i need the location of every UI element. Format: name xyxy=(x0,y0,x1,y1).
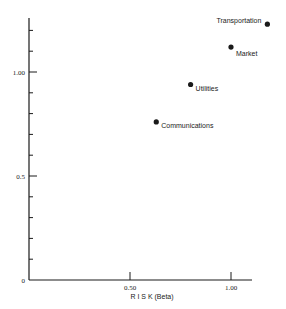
x-axis-title: R I S K (Beta) xyxy=(130,293,173,301)
point-marker xyxy=(265,22,270,27)
point-label: Utilities xyxy=(196,85,219,92)
x-tick-label: 1.00 xyxy=(225,284,238,292)
x-tick-label: 0.50 xyxy=(124,284,137,292)
point-label: Transportation xyxy=(216,17,261,25)
y-tick-label: 0.5 xyxy=(16,173,25,181)
point-marker xyxy=(228,44,233,49)
point-label: Communications xyxy=(161,122,214,129)
axes: 00.51.000.501.00 xyxy=(13,18,252,292)
data-point: Utilities xyxy=(188,82,219,93)
data-points: CommunicationsUtilitiesMarketTransportat… xyxy=(154,17,270,129)
y-tick-label: 1.00 xyxy=(13,69,26,77)
point-marker xyxy=(188,82,193,87)
data-point: Market xyxy=(228,44,257,57)
point-label: Market xyxy=(236,50,257,57)
data-point: Communications xyxy=(154,119,214,129)
scatter-chart: 00.51.000.501.00 CommunicationsUtilities… xyxy=(0,0,286,309)
y-tick-label: 0 xyxy=(22,277,26,285)
data-point: Transportation xyxy=(216,17,269,27)
point-marker xyxy=(154,119,159,124)
